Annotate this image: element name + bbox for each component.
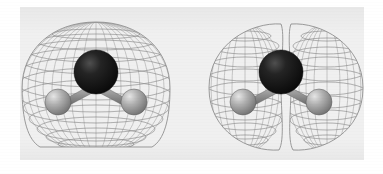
atom-oxygen [74, 50, 118, 94]
orbital-render-right [191, 0, 383, 174]
atom-hydrogen-left [45, 89, 71, 115]
atom-oxygen [259, 50, 303, 94]
atom-hydrogen-left [230, 89, 256, 115]
atom-hydrogen-right [306, 89, 332, 115]
orbital-panel-right: antisymmetric orbital [191, 0, 383, 174]
orbital-panel-left: symmetric orbital [0, 0, 192, 174]
orbital-render-left [0, 0, 192, 174]
atom-hydrogen-right [121, 89, 147, 115]
figure-canvas: symmetric orbital [0, 0, 383, 174]
isosurface-outline-lobe-right [289, 24, 363, 150]
